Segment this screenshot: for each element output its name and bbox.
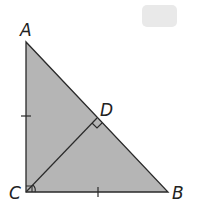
label-c: C (9, 183, 21, 203)
placeholder-badge (142, 5, 177, 27)
label-b: B (172, 183, 184, 203)
label-a: A (19, 20, 32, 40)
label-d: D (100, 100, 113, 120)
triangle-diagram: A D C B (0, 0, 198, 209)
